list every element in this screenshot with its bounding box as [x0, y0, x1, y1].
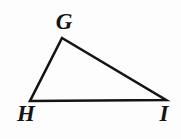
vertex-label-i: I	[160, 102, 169, 125]
vertex-label-h: H	[17, 102, 35, 125]
triangle-figure: G H I	[0, 0, 181, 139]
vertex-label-g: G	[56, 10, 73, 33]
triangle-outline	[30, 38, 166, 101]
